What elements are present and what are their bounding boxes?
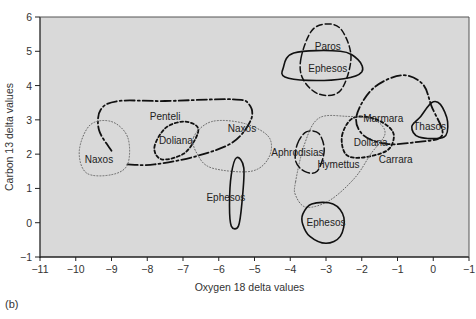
y-tick-label: 0 <box>26 217 32 229</box>
plot-area <box>40 17 469 257</box>
y-tick-label: 6 <box>26 11 32 23</box>
region-label-paros: Paros <box>315 41 341 52</box>
y-tick-label: 3 <box>26 114 32 126</box>
y-tick-label: 2 <box>26 148 32 160</box>
y-tick-label: 1 <box>26 182 32 194</box>
x-axis-ticks: −11−10−9−8−7−6−5−4−3−2−10−1 <box>31 257 475 275</box>
x-tick-label: −4 <box>284 263 296 275</box>
x-tick-label: −8 <box>141 263 153 275</box>
region-label-ephesos: Ephesos <box>308 63 347 74</box>
y-tick-label: 4 <box>26 80 32 92</box>
x-tick-label: −1 <box>463 263 475 275</box>
x-tick-label: 0 <box>430 263 436 275</box>
panel-label: (b) <box>5 298 18 310</box>
x-axis-title: Oxygen 18 delta values <box>195 281 305 293</box>
y-axis-ticks: −10123456 <box>20 11 40 263</box>
region-label-thasos: Thasos <box>413 121 446 132</box>
region-label-ephesos: Ephesos <box>307 217 346 228</box>
region-label-naxos: Naxos <box>85 154 113 165</box>
region-label-marmara: Marmara <box>363 113 403 124</box>
region-label-naxos: Naxos <box>228 123 256 134</box>
region-label-aphrodisias: Aphrodisias <box>271 147 323 158</box>
x-tick-label: −5 <box>249 263 261 275</box>
x-tick-label: −9 <box>106 263 118 275</box>
y-tick-label: −1 <box>20 251 32 263</box>
region-label-hymettus: Hymettus <box>317 159 359 170</box>
x-tick-label: −2 <box>356 263 368 275</box>
x-tick-label: −7 <box>177 263 189 275</box>
x-tick-label: −11 <box>31 263 48 275</box>
x-tick-label: −10 <box>67 263 85 275</box>
x-tick-label: −6 <box>213 263 225 275</box>
chart: PenteliNaxosDolianaNaxosEphesosParosEphe… <box>0 0 476 300</box>
region-label-ephesos: Ephesos <box>206 192 245 203</box>
y-tick-label: 5 <box>26 45 32 57</box>
x-tick-label: −1 <box>392 263 404 275</box>
region-label-doliana: Doliana <box>159 135 193 146</box>
region-label-penteli: Penteli <box>150 111 181 122</box>
y-axis-title: Carbon 13 delta values <box>3 83 15 191</box>
x-tick-label: −3 <box>320 263 332 275</box>
region-label-carrara: Carrara <box>379 154 413 165</box>
region-label-doliana: Doliana <box>354 137 388 148</box>
